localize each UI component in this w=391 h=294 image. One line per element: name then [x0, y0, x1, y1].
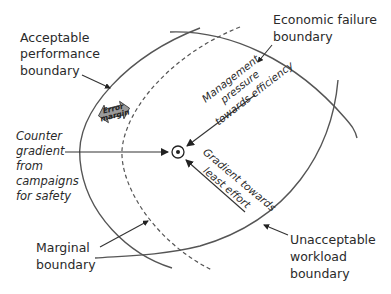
acceptable-performance-pointer — [82, 75, 110, 88]
least-effort-label: Gradient towards least effort — [192, 146, 279, 225]
svg-text:from: from — [16, 159, 43, 173]
svg-text:Economic failure: Economic failure — [273, 12, 377, 27]
safety-boundary-diagram: Error margin Acceptable performance boun… — [0, 0, 391, 294]
marginal-boundary-label: Marginal boundary — [36, 240, 96, 272]
svg-text:gradient: gradient — [16, 144, 65, 158]
acceptable-performance-label: Acceptable performance boundary — [20, 30, 100, 78]
operating-point — [172, 146, 184, 158]
svg-text:for safety: for safety — [16, 189, 71, 203]
counter-gradient-label: Counter gradient from campaigns for safe… — [16, 129, 79, 203]
unacceptable-workload-pointer — [264, 225, 288, 235]
svg-text:boundary: boundary — [36, 257, 96, 272]
economic-failure-label: Economic failure boundary — [273, 12, 377, 44]
economic-failure-pointer — [258, 45, 272, 62]
svg-text:performance: performance — [20, 46, 100, 61]
svg-text:Marginal: Marginal — [36, 240, 90, 255]
svg-text:boundary: boundary — [273, 29, 333, 44]
svg-text:boundary: boundary — [290, 266, 350, 281]
svg-text:campaigns: campaigns — [16, 174, 79, 188]
svg-text:Acceptable: Acceptable — [20, 30, 90, 45]
svg-text:boundary: boundary — [20, 63, 80, 78]
svg-text:Counter: Counter — [16, 129, 63, 143]
management-pressure-label: Management pressure towards efficiency — [196, 38, 296, 128]
svg-text:workload: workload — [290, 249, 347, 264]
error-margin-double-arrow: Error margin — [96, 99, 131, 124]
unacceptable-workload-label: Unacceptable workload boundary — [290, 232, 376, 281]
svg-text:Unacceptable: Unacceptable — [290, 232, 376, 247]
